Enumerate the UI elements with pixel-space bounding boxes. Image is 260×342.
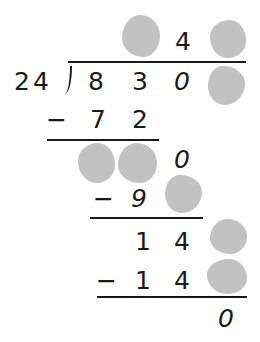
remainder-1-digit-3: 0	[174, 147, 190, 172]
hidden-digit-dividend-4	[208, 66, 245, 105]
hidden-digit-subtract-3-3	[207, 259, 247, 294]
division-bracket	[60, 66, 72, 94]
divisor: 24	[14, 69, 52, 94]
subtract-2-digit-1: 9	[131, 186, 147, 211]
division-bar	[68, 61, 246, 63]
hidden-digit-quotient-1	[122, 15, 160, 57]
step-1-line	[47, 139, 159, 141]
step-3-line	[97, 296, 247, 298]
dividend-digit-2: 3	[132, 69, 148, 94]
step-2-line	[90, 217, 203, 219]
hidden-digit-remainder-1-2	[118, 143, 157, 183]
subtract-1-digit-1: 7	[90, 107, 106, 132]
minus-sign-3: −	[96, 268, 117, 293]
hidden-digit-remainder-2-3	[210, 219, 247, 254]
subtract-3-digit-1: 1	[135, 268, 151, 293]
minus-sign-2: −	[93, 186, 114, 211]
dividend-digit-3: 0	[174, 69, 190, 94]
subtract-1-digit-2: 2	[132, 107, 148, 132]
quotient-digit-2: 4	[175, 29, 191, 54]
dividend-digit-1: 8	[88, 69, 104, 94]
hidden-digit-remainder-1-1	[78, 143, 115, 183]
minus-sign-1: −	[46, 107, 67, 132]
final-remainder: 0	[218, 306, 234, 331]
remainder-2-digit-2: 4	[174, 229, 190, 254]
hidden-digit-subtract-2-2	[165, 175, 202, 213]
subtract-3-digit-2: 4	[174, 268, 190, 293]
hidden-digit-quotient-3	[210, 20, 246, 58]
remainder-2-digit-1: 1	[135, 229, 151, 254]
